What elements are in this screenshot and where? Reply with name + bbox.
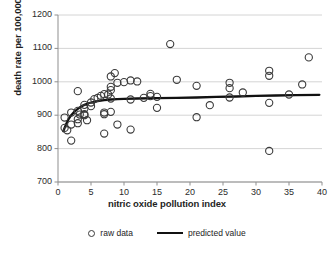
x-tick-label: 0 bbox=[46, 187, 70, 197]
x-tick-label: 20 bbox=[178, 187, 202, 197]
open-circle-icon bbox=[88, 230, 95, 237]
data-point-marker bbox=[101, 130, 108, 137]
data-point-marker bbox=[266, 99, 273, 106]
y-tick-label: 1100 bbox=[18, 42, 52, 52]
data-point-marker bbox=[266, 72, 273, 79]
data-point-marker bbox=[239, 89, 246, 96]
data-point-marker bbox=[153, 104, 160, 111]
x-tick-label: 15 bbox=[145, 187, 169, 197]
x-tick-label: 30 bbox=[244, 187, 268, 197]
data-point-marker bbox=[193, 114, 200, 121]
predicted-value-line bbox=[63, 95, 319, 131]
data-point-marker bbox=[193, 82, 200, 89]
plot-area bbox=[0, 0, 334, 254]
x-axis-title: nitric oxide pollution index bbox=[0, 198, 334, 209]
data-point-marker bbox=[127, 126, 134, 133]
data-point-marker bbox=[173, 76, 180, 83]
legend-item-predicted-value: predicted value bbox=[157, 228, 246, 238]
y-axis-title: death rate per 100,000 bbox=[12, 0, 23, 127]
data-point-marker bbox=[74, 88, 81, 95]
chart-legend: raw data predicted value bbox=[0, 228, 334, 238]
data-point-marker bbox=[206, 102, 213, 109]
x-tick-label: 35 bbox=[277, 187, 301, 197]
y-tick-label: 800 bbox=[18, 143, 52, 153]
data-point-marker bbox=[305, 54, 312, 61]
data-point-marker bbox=[127, 77, 134, 84]
x-tick-label: 10 bbox=[112, 187, 136, 197]
data-point-marker bbox=[226, 85, 233, 92]
x-tick-label: 5 bbox=[79, 187, 103, 197]
legend-label-raw-data: raw data bbox=[100, 228, 133, 238]
y-tick-label: 1000 bbox=[18, 76, 52, 86]
scatter-chart: death rate per 100,000 nitric oxide poll… bbox=[0, 0, 334, 254]
line-swatch-icon bbox=[157, 232, 183, 234]
y-tick-label: 900 bbox=[18, 109, 52, 119]
y-tick-label: 1200 bbox=[18, 9, 52, 19]
data-point-marker bbox=[68, 121, 75, 128]
legend-label-predicted-value: predicted value bbox=[188, 228, 246, 238]
y-axis-title-wrapper: death rate per 100,000 bbox=[12, 0, 26, 127]
data-point-marker bbox=[114, 121, 121, 128]
y-tick-label: 700 bbox=[18, 176, 52, 186]
data-point-marker bbox=[167, 40, 174, 47]
data-point-marker bbox=[68, 137, 75, 144]
x-tick-label: 25 bbox=[211, 187, 235, 197]
x-tick-label: 40 bbox=[310, 187, 334, 197]
legend-item-raw-data: raw data bbox=[88, 228, 133, 238]
